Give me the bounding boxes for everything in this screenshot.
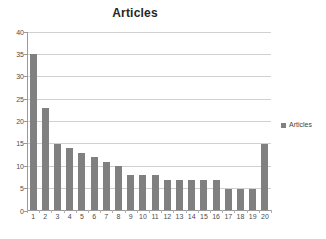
bar-slot xyxy=(198,32,210,211)
x-axis-tick-mark xyxy=(198,210,199,213)
square-marker-icon xyxy=(281,123,286,128)
y-axis-tick-label: 20 xyxy=(4,118,24,125)
x-axis-tick-mark xyxy=(222,210,223,213)
bar[interactable] xyxy=(176,180,183,211)
bar-slot xyxy=(173,32,185,211)
x-axis-tick-mark xyxy=(271,210,272,213)
bar[interactable] xyxy=(139,175,146,211)
x-axis-tick-mark xyxy=(100,210,101,213)
x-axis-tick-mark xyxy=(39,210,40,213)
y-axis-tick-label: 25 xyxy=(4,96,24,103)
plot-area xyxy=(27,32,271,211)
y-axis: 4035302520151050 xyxy=(3,32,24,211)
bar[interactable] xyxy=(213,180,220,211)
x-axis-tick-label: 3 xyxy=(51,213,63,221)
x-axis-tick-label: 6 xyxy=(88,213,100,221)
bar[interactable] xyxy=(78,153,85,211)
bar-slot xyxy=(51,32,63,211)
bar[interactable] xyxy=(164,180,171,211)
bar-slot xyxy=(64,32,76,211)
x-axis-tick-label: 20 xyxy=(259,213,271,221)
y-axis-tick-label: 40 xyxy=(4,29,24,36)
bar-chart: Articles 4035302520151050 12345678910111… xyxy=(0,0,326,239)
bar[interactable] xyxy=(127,175,134,211)
x-axis-tick-mark xyxy=(112,210,113,213)
x-axis-tick-label: 5 xyxy=(76,213,88,221)
x-axis-tick-label: 13 xyxy=(173,213,185,221)
x-axis-tick-label: 17 xyxy=(222,213,234,221)
plot-area-wrapper xyxy=(27,32,271,211)
y-axis-tick-label: 0 xyxy=(4,208,24,215)
x-axis-tick-mark xyxy=(173,210,174,213)
bar-slot xyxy=(88,32,100,211)
bar-slot xyxy=(161,32,173,211)
x-axis-tick-mark xyxy=(137,210,138,213)
bar-slot xyxy=(100,32,112,211)
x-axis-tick-mark xyxy=(88,210,89,213)
x-axis-tick-label: 16 xyxy=(210,213,222,221)
bar-slot xyxy=(149,32,161,211)
bar[interactable] xyxy=(91,157,98,211)
x-axis-tick-label: 10 xyxy=(137,213,149,221)
bar[interactable] xyxy=(188,180,195,211)
bar[interactable] xyxy=(66,148,73,211)
bar[interactable] xyxy=(152,175,159,211)
x-axis-tick-mark xyxy=(64,210,65,213)
bar[interactable] xyxy=(225,189,232,211)
x-axis-tick-mark xyxy=(210,210,211,213)
x-axis-tick-mark xyxy=(161,210,162,213)
bar[interactable] xyxy=(115,166,122,211)
x-axis-tick-mark xyxy=(234,210,235,213)
x-axis-tick-label: 18 xyxy=(234,213,246,221)
x-axis-tick-mark xyxy=(76,210,77,213)
x-axis-tick-mark xyxy=(259,210,260,213)
bar-slot xyxy=(76,32,88,211)
bar-slot xyxy=(186,32,198,211)
bar-slot xyxy=(112,32,124,211)
x-axis-tick-mark xyxy=(27,210,28,213)
x-axis-tick-label: 7 xyxy=(100,213,112,221)
x-axis-tick-mark xyxy=(125,210,126,213)
y-axis-tick-label: 5 xyxy=(4,185,24,192)
bar[interactable] xyxy=(54,144,61,211)
legend-item-label: Articles xyxy=(289,121,312,129)
y-axis-tick-label: 10 xyxy=(4,163,24,170)
bar-slot xyxy=(137,32,149,211)
bar-slot xyxy=(27,32,39,211)
x-axis-tick-label: 15 xyxy=(198,213,210,221)
x-axis-tick-label: 4 xyxy=(64,213,76,221)
x-axis-tick-label: 2 xyxy=(39,213,51,221)
bar-slot xyxy=(125,32,137,211)
x-axis-tick-label: 8 xyxy=(112,213,124,221)
bar[interactable] xyxy=(237,189,244,211)
bar[interactable] xyxy=(249,189,256,211)
x-axis-tick-label: 9 xyxy=(125,213,137,221)
y-axis-tick-label: 35 xyxy=(4,51,24,58)
bar[interactable] xyxy=(261,144,268,211)
bar-slot xyxy=(247,32,259,211)
x-axis-tick-label: 14 xyxy=(186,213,198,221)
bar[interactable] xyxy=(30,54,37,211)
x-axis-tick-label: 11 xyxy=(149,213,161,221)
bar-slot xyxy=(259,32,271,211)
y-axis-line xyxy=(27,32,28,211)
bar[interactable] xyxy=(103,162,110,211)
chart-title: Articles xyxy=(0,6,270,20)
x-axis-tick-mark xyxy=(51,210,52,213)
bar-slot xyxy=(234,32,246,211)
bar-slot xyxy=(39,32,51,211)
y-axis-tick-label: 15 xyxy=(4,140,24,147)
y-axis-tick-label: 30 xyxy=(4,73,24,80)
x-axis: 1234567891011121314151617181920 xyxy=(27,213,271,225)
x-axis-tick-mark xyxy=(149,210,150,213)
x-axis-tick-label: 19 xyxy=(247,213,259,221)
x-axis-tick-label: 1 xyxy=(27,213,39,221)
bar-slot xyxy=(222,32,234,211)
chart-legend: Articles xyxy=(281,121,312,129)
x-axis-tick-mark xyxy=(247,210,248,213)
bar[interactable] xyxy=(42,108,49,211)
x-axis-tick-mark xyxy=(186,210,187,213)
x-axis-tick-label: 12 xyxy=(161,213,173,221)
bar-slot xyxy=(210,32,222,211)
bar[interactable] xyxy=(200,180,207,211)
